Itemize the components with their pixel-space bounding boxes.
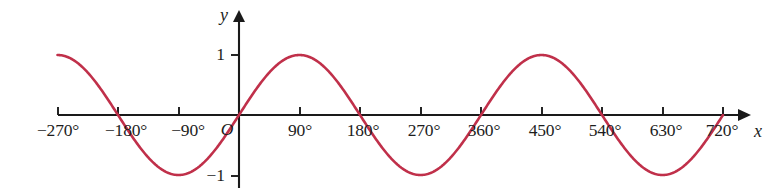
x-tick-label: 270° <box>408 120 441 140</box>
x-tick-label: −270° <box>37 120 79 140</box>
x-axis-label: x <box>753 121 762 141</box>
origin-label: O <box>221 119 234 139</box>
x-tick-label: 720° <box>706 120 739 140</box>
y-axis-arrowhead <box>233 10 245 22</box>
x-tick-label: 90° <box>288 120 312 140</box>
y-tick-label: −1 <box>206 165 225 185</box>
x-tick-label: 180° <box>347 120 380 140</box>
y-axis-group <box>233 10 245 188</box>
x-tick-label: −90° <box>171 120 205 140</box>
x-tick-label: −180° <box>105 120 147 140</box>
x-axis-arrowhead <box>738 109 751 121</box>
x-tick-marks-group <box>58 107 723 115</box>
x-tick-label: 450° <box>529 120 562 140</box>
x-tick-label: 630° <box>650 120 683 140</box>
x-tick-label: 540° <box>589 120 622 140</box>
x-axis-group <box>58 109 751 121</box>
plot-canvas: −270° −180° −90° 90° 180° 270° 360° 450°… <box>0 0 773 193</box>
y-axis-label: y <box>218 5 228 25</box>
y-tick-label: 1 <box>216 44 225 64</box>
sine-curve-figure: −270° −180° −90° 90° 180° 270° 360° 450°… <box>0 0 773 193</box>
x-tick-labels-group: −270° −180° −90° 90° 180° 270° 360° 450°… <box>37 120 738 140</box>
x-tick-label: 360° <box>468 120 501 140</box>
